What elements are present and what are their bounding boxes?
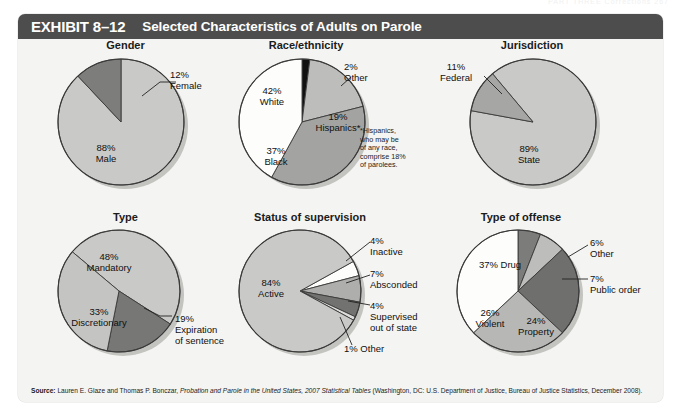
label-status-inactive: 4% Inactive: [370, 235, 436, 257]
chart-title-status: Status of supervision: [210, 211, 410, 223]
label-race-black: 37% Black: [247, 145, 305, 167]
chart-type-of-offense: Type of offense 37% Drug 26% Violent 24%…: [442, 211, 663, 376]
leader-offense-lines: [538, 243, 594, 299]
label-jurisdiction-state: 89% State: [500, 143, 558, 165]
chart-type: Type 48% Mandatory 33% Discretionary 19%…: [18, 211, 233, 376]
label-type-discretionary: 33% Discretionary: [56, 306, 142, 328]
chart-status-of-supervision: Status of supervision 84% Active 4% Inac…: [214, 211, 444, 376]
exhibit-panel: EXHIBIT 8–12 Selected Characteristics of…: [18, 14, 663, 402]
running-header: PART THREE Corrections 267: [0, 0, 679, 9]
pie-type-svg: [55, 227, 187, 359]
chart-title-gender: Gender: [18, 39, 233, 51]
source-line: Source: Lauren E. Glaze and Thomas P. Bo…: [31, 386, 651, 395]
chart-title-type-of-offense: Type of offense: [436, 211, 606, 223]
label-status-absconded: 7% Absconded: [370, 268, 444, 290]
exhibit-number: EXHIBIT 8–12: [31, 18, 125, 35]
label-offense-other: 6% Other: [590, 237, 640, 259]
source-title: Probation and Parole in the United State…: [180, 387, 371, 394]
chart-title-race-ethnicity: Race/ethnicity: [206, 39, 406, 51]
leader-race-other: [331, 77, 357, 93]
chart-jurisdiction: Jurisdiction 89% State 11% Federal: [442, 39, 663, 209]
label-status-supervised-out-of-state: 4% Supervised out of state: [370, 300, 440, 333]
label-jurisdiction-federal: 11% Federal: [428, 61, 484, 83]
running-header-text: PART THREE Corrections 267: [548, 0, 669, 5]
leader-status-lines: [300, 239, 378, 351]
leader-gender-female: [138, 79, 178, 101]
label-type-mandatory: 48% Mandatory: [74, 251, 144, 273]
source-post: (Washington, DC: U.S. Department of Just…: [371, 387, 643, 394]
chart-gender: Gender 88% Male 12% Female: [18, 39, 233, 209]
label-offense-drug: 37% Drug: [460, 259, 540, 270]
leader-type-expiration: [142, 307, 178, 327]
chart-title-type: Type: [18, 211, 233, 223]
label-gender-male: 88% Male: [76, 142, 136, 164]
charts-area: Gender 88% Male 12% Female Race/ethnicit…: [18, 39, 663, 379]
footnote-race-hispanics: *Hispanics, who may be of any race, comp…: [360, 127, 430, 170]
leader-jurisdiction-federal: [482, 75, 512, 99]
pie-type: [55, 227, 187, 359]
label-offense-property: 24% Property: [504, 315, 568, 337]
source-pre: Lauren E. Glaze and Thomas P. Bonczar,: [56, 387, 180, 394]
label-offense-public-order: 7% Public order: [590, 273, 662, 295]
chart-title-jurisdiction: Jurisdiction: [452, 39, 612, 51]
label-race-white: 42% White: [243, 85, 301, 107]
source-label: Source:: [31, 387, 56, 394]
chart-race-ethnicity: Race/ethnicity 42% White 37% Black 19% H…: [214, 39, 444, 209]
label-status-active: 84% Active: [242, 277, 300, 299]
exhibit-header-bar: EXHIBIT 8–12 Selected Characteristics of…: [18, 14, 663, 39]
exhibit-title: Selected Characteristics of Adults on Pa…: [142, 19, 421, 34]
